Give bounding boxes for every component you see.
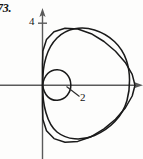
loop-callout-leader-line [67,87,80,97]
limacon-outer-curve [43,28,130,139]
problem-number-label: 73. [0,2,11,14]
inner-loop-callout-label: 2 [80,92,86,103]
limacon-figure: 73. 4 2 [0,0,143,159]
figure-canvas [0,0,143,159]
y-axis-tick-label: 4 [29,16,35,27]
